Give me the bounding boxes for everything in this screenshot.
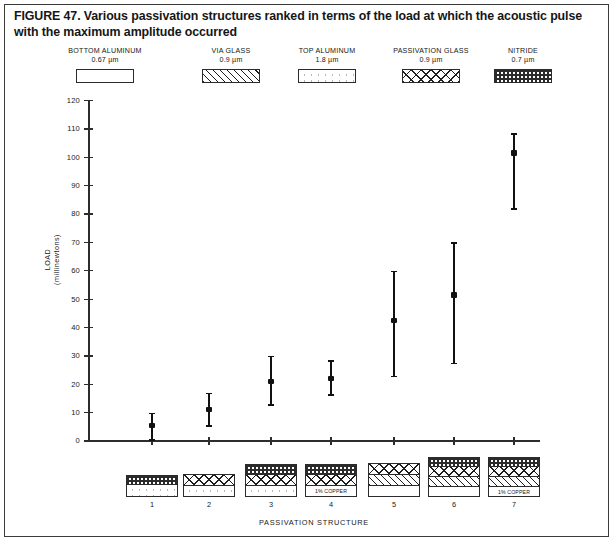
- material-legend-name: BOTTOM ALUMINUM: [45, 47, 165, 56]
- structure-number-1: 1: [126, 500, 178, 509]
- material-legend-thickness: 1.8 µm: [267, 56, 387, 66]
- material-legend-item-5: NITRIDE0.7 µm: [463, 47, 583, 83]
- structure-layer-nitride-dark-dots: [489, 458, 539, 467]
- figure-caption: FIGURE 47. Various passivation structure…: [14, 9, 596, 40]
- material-legend-swatch-diagonal-hatch: [202, 69, 260, 83]
- structure-layer-nitride-dark-dots: [429, 458, 479, 467]
- structure-layer-cross-hatch: [489, 467, 539, 477]
- material-legend-swatch-cross-hatch: [402, 69, 460, 83]
- structure-layer-diagonal-hatch: [489, 477, 539, 487]
- structure-layer-nitride-dark-dots: [306, 465, 356, 475]
- material-legend-swatch-dotted: [298, 69, 356, 83]
- structure-layer-cross-hatch: [246, 475, 296, 486]
- material-legend-item-3: TOP ALUMINUM1.8 µm: [267, 47, 387, 83]
- structure-layer-dotted: [246, 486, 296, 496]
- material-legend-name: TOP ALUMINUM: [267, 47, 387, 56]
- structure-layer-blank: [369, 486, 419, 496]
- structure-layer-label: 1% COPPER: [306, 488, 356, 494]
- structure-stack-3: [245, 464, 297, 497]
- material-legend-swatch-blank: [76, 69, 134, 83]
- structure-number-6: 6: [428, 500, 480, 509]
- structure-number-4: 4: [305, 500, 357, 509]
- structure-stack-6: [428, 457, 480, 497]
- structure-layer-cross-hatch: [184, 475, 234, 486]
- structure-layer-cross-hatch: [369, 464, 419, 475]
- figure-page: FIGURE 47. Various passivation structure…: [0, 0, 614, 542]
- structure-stack-4: 1% COPPER: [305, 464, 357, 497]
- structure-layer-label: 1% COPPER: [489, 489, 539, 495]
- structure-layer-blank: [429, 487, 479, 496]
- structure-layer-dotted: [184, 486, 234, 496]
- structure-layer-diagonal-hatch: [429, 477, 479, 487]
- structure-layer-blank: 1% COPPER: [489, 487, 539, 496]
- structure-layer-nitride-dark-dots: [246, 465, 296, 475]
- structure-number-5: 5: [368, 500, 420, 509]
- structure-stack-7: 1% COPPER: [488, 457, 540, 497]
- structure-layer-blank: 1% COPPER: [306, 486, 356, 496]
- structure-layer-cross-hatch: [429, 467, 479, 477]
- structure-layer-nitride-dark-dots: [127, 476, 177, 485]
- material-legend-thickness: 0.7 µm: [463, 56, 583, 66]
- material-legend-item-1: BOTTOM ALUMINUM0.67 µm: [45, 47, 165, 83]
- material-legend-thickness: 0.67 µm: [45, 56, 165, 66]
- structure-layer-cross-hatch: [306, 475, 356, 486]
- material-legend-swatch-nitride-dark-dots: [494, 69, 552, 83]
- structure-stack-2: [183, 474, 235, 497]
- structure-number-7: 7: [488, 500, 540, 509]
- materials-legend: BOTTOM ALUMINUM0.67 µmVIA GLASS0.9 µmTOP…: [14, 47, 600, 93]
- structure-layer-diagonal-hatch: [369, 475, 419, 486]
- structure-stack-5: [368, 463, 420, 497]
- structure-number-3: 3: [245, 500, 297, 509]
- structure-layer-dotted: [127, 485, 177, 496]
- structure-number-2: 2: [183, 500, 235, 509]
- material-legend-name: NITRIDE: [463, 47, 583, 56]
- structure-stack-1: [126, 475, 178, 497]
